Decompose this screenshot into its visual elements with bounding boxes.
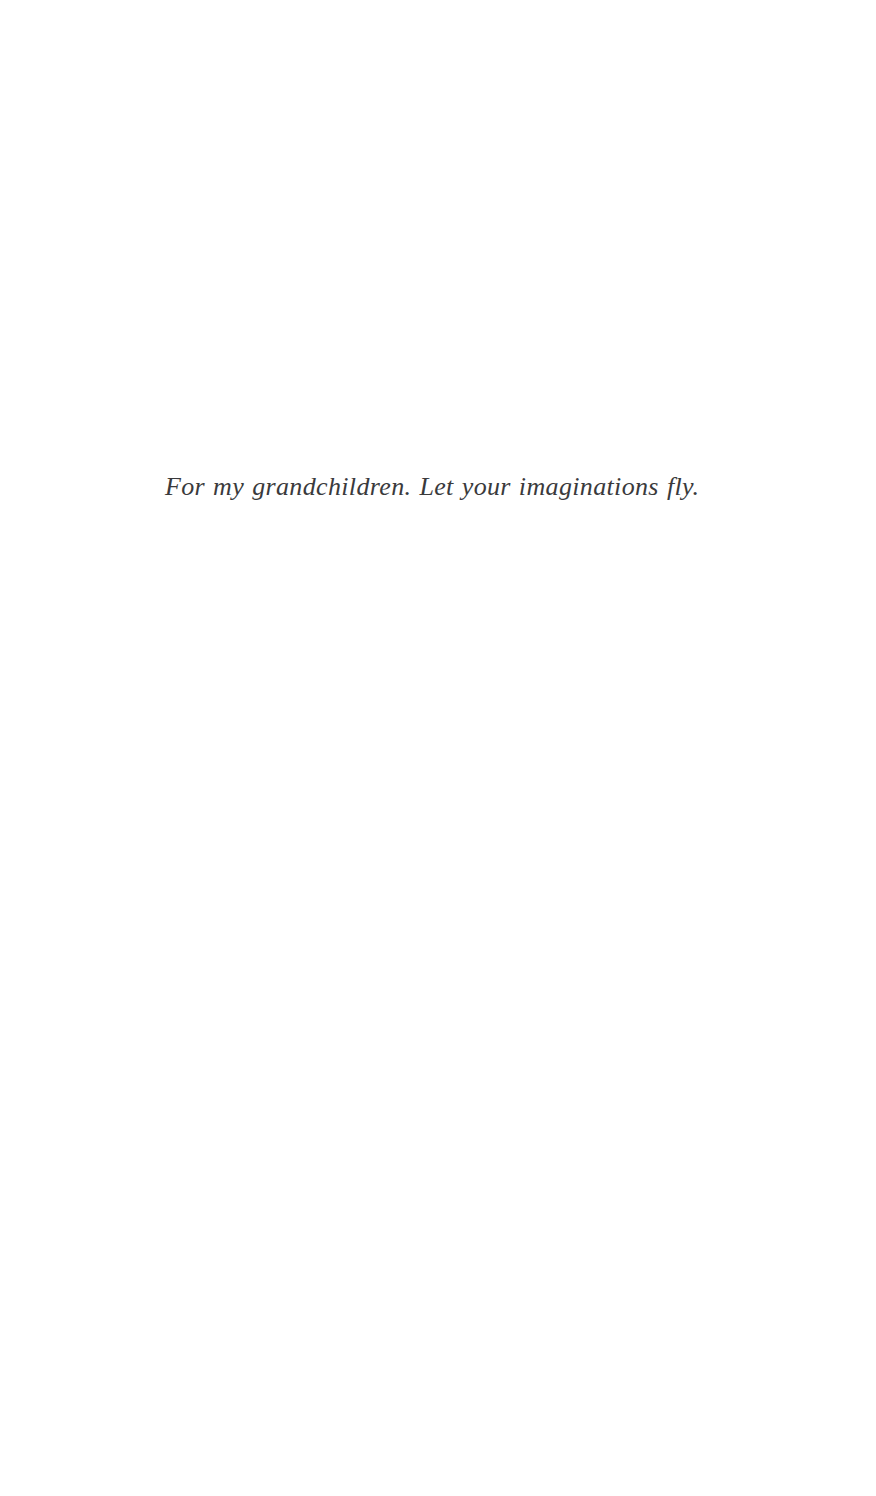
- dedication-text: For my grandchildren. Let your imaginati…: [165, 470, 725, 504]
- dedication-page: For my grandchildren. Let your imaginati…: [0, 0, 876, 1496]
- dedication-block: For my grandchildren. Let your imaginati…: [165, 470, 725, 504]
